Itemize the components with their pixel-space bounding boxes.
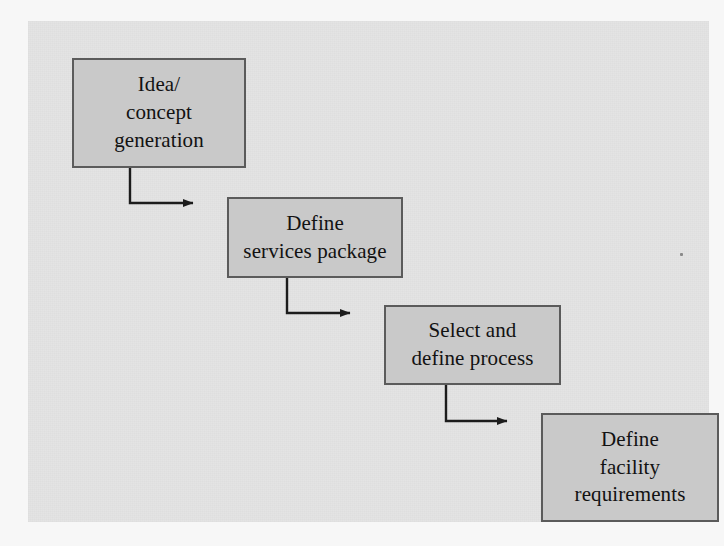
node-select-and-define-process-label: Select and define process: [405, 317, 539, 373]
node-idea-concept-generation-label: Idea/ concept generation: [108, 71, 210, 155]
node-idea-concept-generation[interactable]: Idea/ concept generation: [72, 58, 246, 168]
diagram-screenshot: Idea/ concept generation Define services…: [0, 0, 724, 546]
node-define-services-package-label: Define services package: [237, 210, 392, 266]
node-select-and-define-process[interactable]: Select and define process: [384, 305, 561, 385]
node-define-facility-requirements[interactable]: Define facility requirements: [541, 413, 719, 522]
node-define-facility-requirements-label: Define facility requirements: [569, 426, 692, 510]
diagram-panel: Idea/ concept generation Define services…: [28, 21, 709, 522]
node-define-services-package[interactable]: Define services package: [227, 197, 403, 278]
